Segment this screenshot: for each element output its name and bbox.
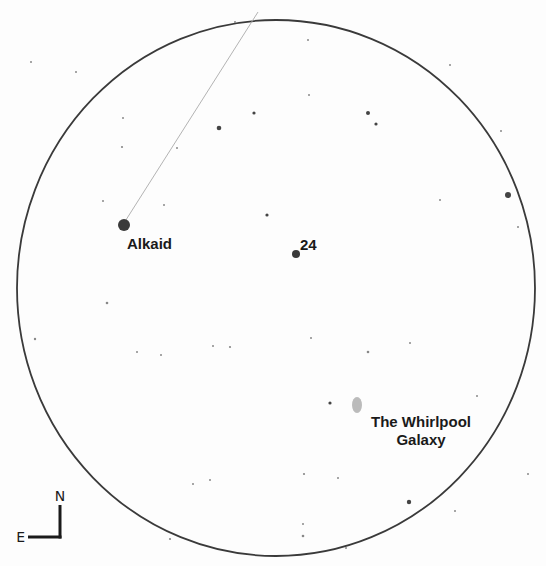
label-24: 24 — [300, 236, 317, 253]
field-of-view-circle — [17, 20, 535, 556]
star — [163, 204, 165, 206]
star — [505, 192, 511, 198]
star — [212, 345, 214, 347]
star — [439, 199, 441, 201]
star — [366, 111, 370, 115]
star — [217, 126, 222, 131]
background-stars — [30, 21, 529, 549]
star — [209, 479, 211, 481]
star — [122, 117, 124, 119]
galaxy-whirlpool — [352, 397, 362, 413]
star — [176, 147, 178, 149]
star — [136, 351, 138, 353]
star — [449, 64, 451, 66]
star — [169, 538, 171, 540]
star — [229, 346, 231, 348]
star — [160, 354, 162, 356]
star — [252, 111, 255, 114]
label-whirlpool-line2: Galaxy — [396, 431, 446, 448]
star-24 — [292, 250, 300, 258]
label-alkaid: Alkaid — [127, 235, 172, 252]
star — [30, 61, 32, 63]
east-label: E — [16, 529, 25, 545]
star — [192, 483, 194, 485]
star — [328, 401, 331, 404]
star — [500, 130, 502, 132]
star — [302, 523, 304, 525]
star — [308, 94, 310, 96]
star — [307, 39, 309, 41]
star — [106, 302, 109, 305]
star — [303, 473, 305, 475]
compass-indicator: N E — [16, 488, 65, 545]
star — [407, 500, 411, 504]
star — [234, 21, 236, 23]
star — [345, 547, 347, 549]
star — [367, 351, 370, 354]
star-chart-canvas: Alkaid 24 The Whirlpool Galaxy N E — [0, 0, 546, 566]
star — [454, 510, 456, 512]
star — [34, 338, 36, 340]
pointer-line — [124, 12, 258, 223]
star — [265, 213, 268, 216]
finder-chart: Alkaid 24 The Whirlpool Galaxy N E — [0, 0, 546, 566]
star — [310, 337, 312, 339]
star — [517, 226, 519, 228]
star — [527, 473, 529, 475]
star — [102, 200, 104, 202]
star — [337, 477, 339, 479]
star — [476, 395, 478, 397]
star — [302, 535, 305, 538]
star — [121, 146, 123, 148]
north-label: N — [55, 488, 65, 504]
star — [75, 71, 77, 73]
star — [409, 342, 411, 344]
star-alkaid — [118, 219, 130, 231]
star — [374, 122, 377, 125]
label-whirlpool-line1: The Whirlpool — [371, 413, 471, 430]
